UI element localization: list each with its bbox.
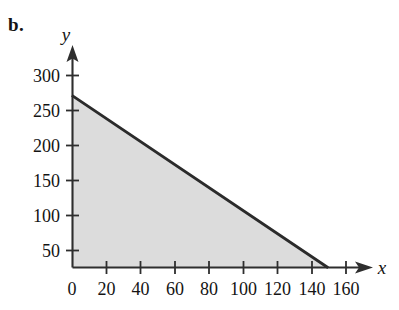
x-tick-label-140: 140 xyxy=(299,279,326,299)
y-tick-label-300: 300 xyxy=(33,66,60,86)
figure-canvas: b. xyxy=(0,0,399,310)
x-tick-label-20: 20 xyxy=(98,279,116,299)
y-tick-label-250: 250 xyxy=(33,101,60,121)
coordinate-plane-plot: 300 250 200 150 100 50 0 20 40 60 80 100… xyxy=(0,0,399,310)
y-axis-label: y xyxy=(60,24,71,45)
origin-label: 0 xyxy=(68,279,77,299)
y-tick-label-200: 200 xyxy=(33,136,60,156)
x-tick-label-80: 80 xyxy=(200,279,218,299)
x-axis-label: x xyxy=(377,257,387,278)
x-tick-label-120: 120 xyxy=(264,279,291,299)
x-tick-label-100: 100 xyxy=(230,279,257,299)
x-tick-label-60: 60 xyxy=(166,279,184,299)
y-tick-label-50: 50 xyxy=(42,241,60,261)
x-tick-label-40: 40 xyxy=(132,279,150,299)
y-tick-label-100: 100 xyxy=(33,206,60,226)
x-tick-label-160: 160 xyxy=(333,279,360,299)
y-tick-label-150: 150 xyxy=(33,171,60,191)
